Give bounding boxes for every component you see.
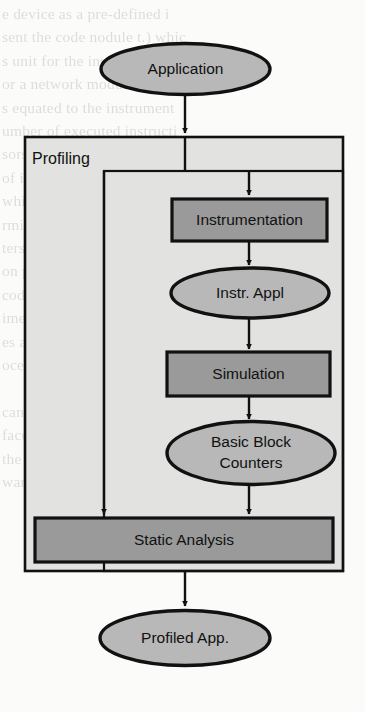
node-static-analysis-label: Static Analysis <box>134 531 234 548</box>
node-instrumentation[interactable]: Instrumentation <box>172 199 327 241</box>
group-profiling-label: Profiling <box>32 150 90 167</box>
node-profiled-app[interactable]: Profiled App. <box>100 611 270 666</box>
node-simulation[interactable]: Simulation <box>167 352 330 396</box>
node-instr-appl-label: Instr. Appl <box>216 284 284 301</box>
node-application[interactable]: Application <box>101 44 270 95</box>
node-static-analysis[interactable]: Static Analysis <box>35 518 333 562</box>
node-basic-block-counters-label-line1: Basic Block <box>211 433 291 450</box>
node-simulation-label: Simulation <box>212 365 284 382</box>
node-basic-block-counters-label-line2: Counters <box>220 454 283 471</box>
node-basic-block-counters[interactable]: Basic Block Counters <box>167 422 335 485</box>
node-profiled-app-label: Profiled App. <box>141 629 229 646</box>
node-application-label: Application <box>148 60 224 77</box>
node-instrumentation-label: Instrumentation <box>196 211 303 228</box>
profiling-flowchart: Profiling Application Instrumentation In… <box>0 0 365 712</box>
node-basic-block-counters-shape <box>167 422 335 485</box>
node-instr-appl[interactable]: Instr. Appl <box>171 268 329 318</box>
